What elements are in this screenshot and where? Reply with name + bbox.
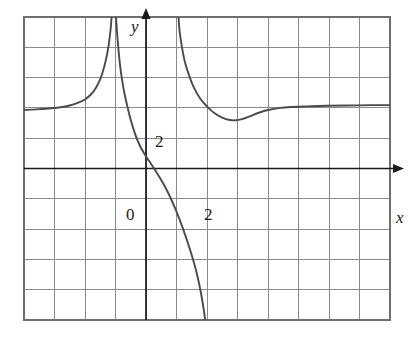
graph-canvas: [0, 0, 414, 338]
coordinate-axes: [24, 8, 404, 320]
y-tick-label-2: 2: [155, 133, 164, 150]
y-axis-label: y: [131, 18, 139, 35]
graph-figure: y x 0 2 2: [0, 0, 414, 338]
origin-label: 0: [126, 206, 135, 223]
x-tick-label-2: 2: [204, 206, 213, 223]
x-axis-label: x: [396, 209, 404, 226]
